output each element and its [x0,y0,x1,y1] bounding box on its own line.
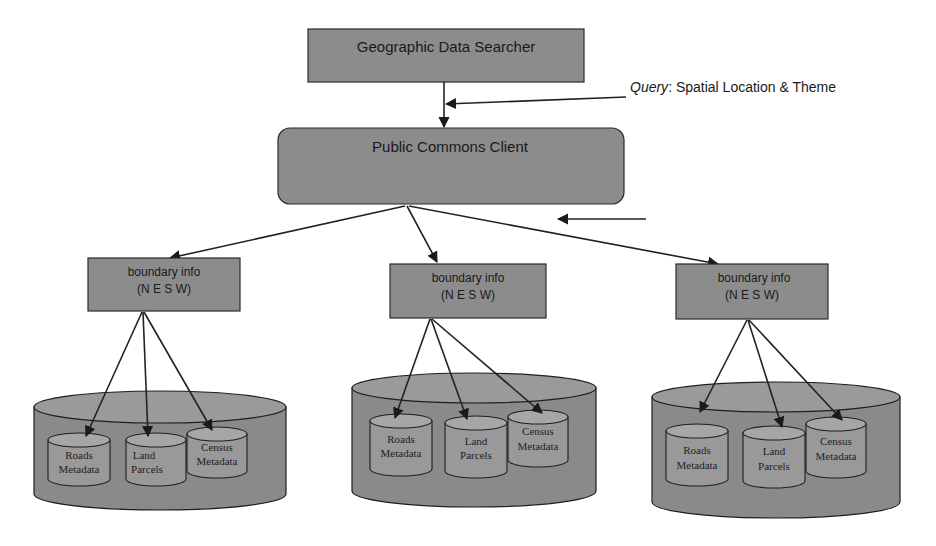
svg-text:Roads: Roads [683,444,711,456]
database-land-parcels-3: Land Parcels [743,426,805,488]
svg-text:Metadata: Metadata [677,459,718,471]
architecture-diagram: Geographic Data Searcher Query: Spatial … [0,0,936,546]
repository-3: boundary info (N E S W) Roads Metadata L… [652,264,900,518]
svg-text:Roads: Roads [387,433,415,445]
svg-text:Census: Census [522,425,554,437]
query-input-arrow [446,97,626,104]
boundary-info-label-2: boundary info [432,271,505,285]
database-land-parcels-2: Land Parcels [445,416,507,478]
client-to-boundary-1-arrow [170,206,405,258]
database-roads-metadata-3: Roads Metadata [666,424,728,486]
database-roads-metadata-1: Roads Metadata [48,433,110,486]
svg-text:Census: Census [820,435,852,447]
geographic-data-searcher-node: Geographic Data Searcher [308,29,584,82]
svg-text:Parcels: Parcels [758,460,790,472]
geographic-data-searcher-label: Geographic Data Searcher [357,38,535,55]
svg-text:Land: Land [465,435,488,447]
boundary-coords-label-3: (N E S W) [725,288,779,302]
svg-text:Metadata: Metadata [381,447,422,459]
database-census-metadata-2: Census Metadata [508,410,568,467]
repository-1: boundary info (N E S W) Roads Metadata L… [34,258,286,510]
boundary-coords-label-1: (N E S W) [137,282,191,296]
query-text: : Spatial Location & Theme [668,79,836,95]
database-roads-metadata-2: Roads Metadata [370,414,432,476]
database-census-metadata-1: Census Metadata [187,427,247,478]
svg-text:Metadata: Metadata [816,450,857,462]
public-commons-client-label: Public Commons Client [372,138,529,155]
svg-text:Metadata: Metadata [518,440,559,452]
svg-text:Census: Census [201,441,233,453]
boundary-info-label-3: boundary info [718,271,791,285]
public-commons-client-node: Public Commons Client [278,128,624,204]
svg-text:Metadata: Metadata [197,455,238,467]
boundary-coords-label-2: (N E S W) [441,288,495,302]
svg-text:Parcels: Parcels [460,449,492,461]
database-census-metadata-3: Census Metadata [806,417,866,478]
client-to-boundary-3-arrow [409,206,718,264]
svg-text:Parcels: Parcels [131,463,163,475]
client-to-boundary-2-arrow [407,206,437,262]
svg-text:Metadata: Metadata [59,463,100,475]
svg-text:Land: Land [133,449,156,461]
query-prefix: Query [630,79,669,95]
database-land-parcels-1: Land Parcels [126,433,186,486]
svg-text:Roads: Roads [65,449,93,461]
repository-2: boundary info (N E S W) Roads Metadata L… [352,264,596,507]
svg-text:Land: Land [763,445,786,457]
query-label: Query: Spatial Location & Theme [630,79,836,95]
boundary-info-label-1: boundary info [128,265,201,279]
